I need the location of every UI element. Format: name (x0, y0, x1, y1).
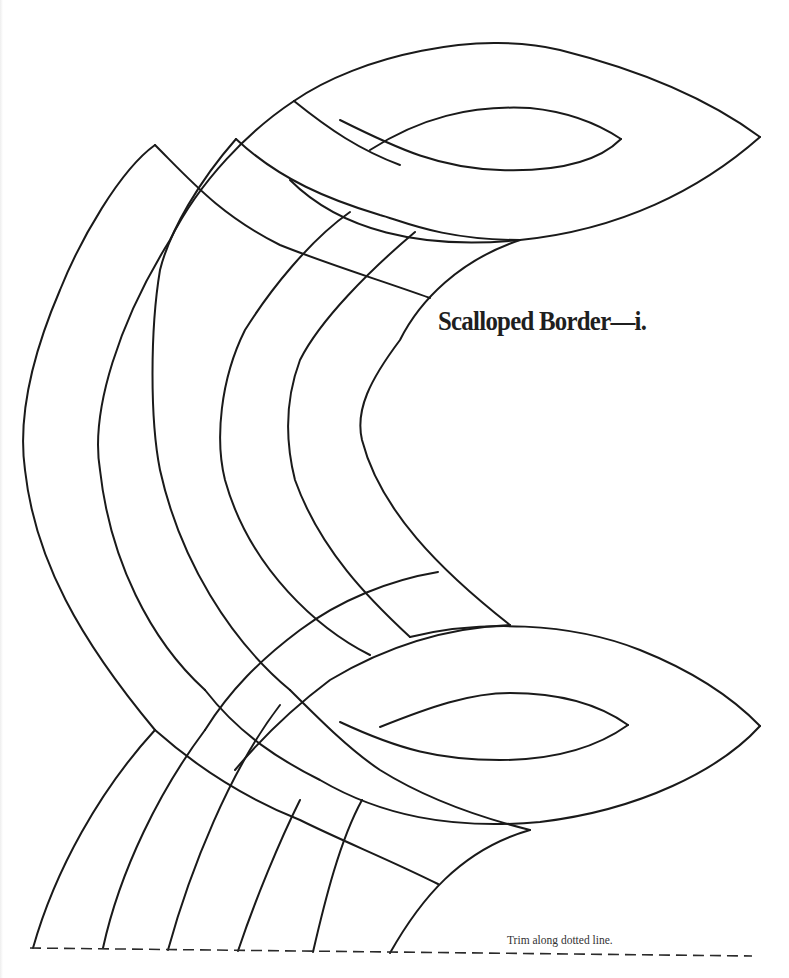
stroke-peak-left (23, 145, 155, 730)
scalloped-border-drawing (0, 0, 789, 978)
stroke-lower-band-3 (168, 705, 280, 950)
stroke-band-3 (220, 212, 370, 655)
border-outline-strokes (23, 43, 760, 953)
stroke-upper-lobe-inner-top (370, 108, 621, 150)
stroke-lower-lobe-outer-bottom (205, 690, 760, 824)
stroke-lower-band-1 (33, 730, 155, 948)
stroke-band-1 (98, 101, 294, 690)
pattern-title: Scalloped Border—i. (438, 306, 646, 337)
stroke-upper-seam-b (236, 139, 520, 240)
trim-dotted-line (30, 948, 752, 956)
pattern-page: Scalloped Border—i. Trim along dotted li… (0, 0, 789, 978)
stroke-upper-seam-a (294, 101, 400, 165)
stroke-lower-band-5 (313, 800, 362, 952)
trim-instruction: Trim along dotted line. (507, 934, 613, 946)
stroke-band-5 (360, 240, 520, 625)
stroke-lower-band-4 (238, 800, 300, 951)
stroke-upper-lobe-outer-bottom (290, 137, 760, 243)
stroke-lower-lobe-inner-bottom (340, 722, 628, 760)
stroke-lower-lobe-inner-top (380, 693, 628, 727)
stroke-lower-seam-a (205, 572, 438, 730)
stroke-band-4 (288, 232, 415, 637)
stroke-upper-seam-c (155, 145, 430, 298)
stroke-upper-lobe-outer-top (294, 43, 760, 137)
stroke-upper-lobe-inner-bottom (340, 120, 621, 170)
stroke-lower-band-2 (103, 730, 205, 948)
stroke-lower-lobe-outer-top (410, 626, 760, 726)
